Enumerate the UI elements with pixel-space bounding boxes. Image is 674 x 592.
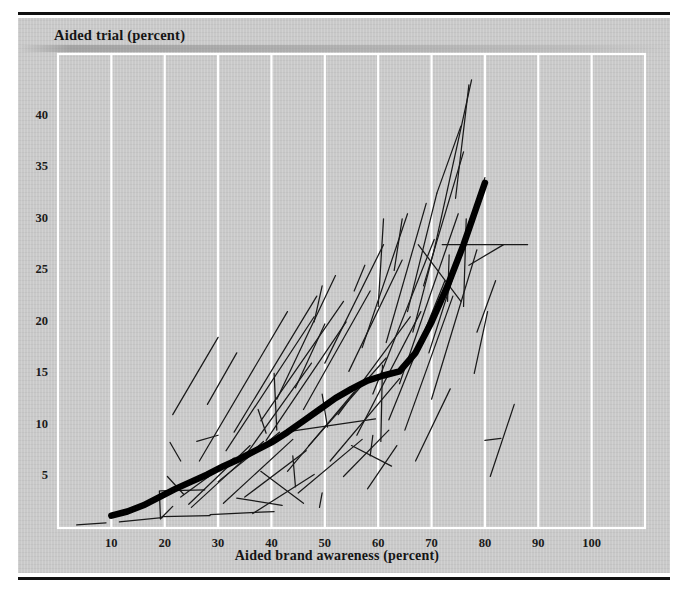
trajectory-segment — [189, 446, 250, 505]
trajectory-segment — [362, 214, 407, 348]
trajectory-segment — [416, 389, 451, 461]
trajectory-segment — [119, 518, 162, 522]
trajectory-segment — [490, 404, 514, 476]
trajectory-segment — [162, 516, 210, 517]
fitted-curve — [111, 183, 485, 516]
y-tick-35: 35 — [10, 159, 48, 174]
chart-figure: Aided trial (percent) 510152025303540 10… — [0, 0, 674, 592]
trajectory-segment — [469, 245, 504, 266]
trajectory-segment — [354, 265, 365, 291]
trajectory-segment — [319, 493, 322, 507]
trajectory-segment — [197, 435, 218, 441]
y-tick-40: 40 — [10, 108, 48, 123]
y-tick-5: 5 — [10, 468, 48, 483]
x-axis-title: Aided brand awareness (percent) — [0, 548, 674, 564]
plot-frame — [58, 54, 645, 528]
trajectory-segment — [325, 245, 384, 364]
fitted-curve-path — [111, 183, 485, 516]
trajectory-segment — [368, 446, 397, 489]
trajectory-segment — [170, 442, 181, 461]
gridlines — [58, 54, 645, 528]
trajectory-segment — [303, 291, 370, 410]
trajectory-segment — [258, 410, 266, 434]
y-tick-10: 10 — [10, 417, 48, 432]
y-tick-25: 25 — [10, 262, 48, 277]
trajectory-segment — [226, 317, 314, 451]
bottom-rule — [18, 577, 670, 580]
trajectory-segment — [253, 474, 314, 513]
y-tick-15: 15 — [10, 365, 48, 380]
trajectory-segment — [77, 523, 106, 525]
trajectory-segment — [485, 438, 501, 440]
y-tick-30: 30 — [10, 211, 48, 226]
trajectory-segment — [477, 281, 496, 333]
trajectory-segment — [314, 286, 322, 322]
trajectory-segment — [207, 353, 236, 405]
y-tick-20: 20 — [10, 314, 48, 329]
trajectory-segment — [338, 317, 410, 415]
brand-trajectory-segments — [77, 80, 528, 525]
trajectory-segment — [245, 451, 306, 497]
trajectory-segment — [210, 512, 274, 515]
trajectory-segment — [261, 471, 304, 503]
plot-canvas — [0, 0, 674, 592]
trajectory-segment — [173, 337, 218, 414]
trajectory-segment — [370, 435, 373, 456]
